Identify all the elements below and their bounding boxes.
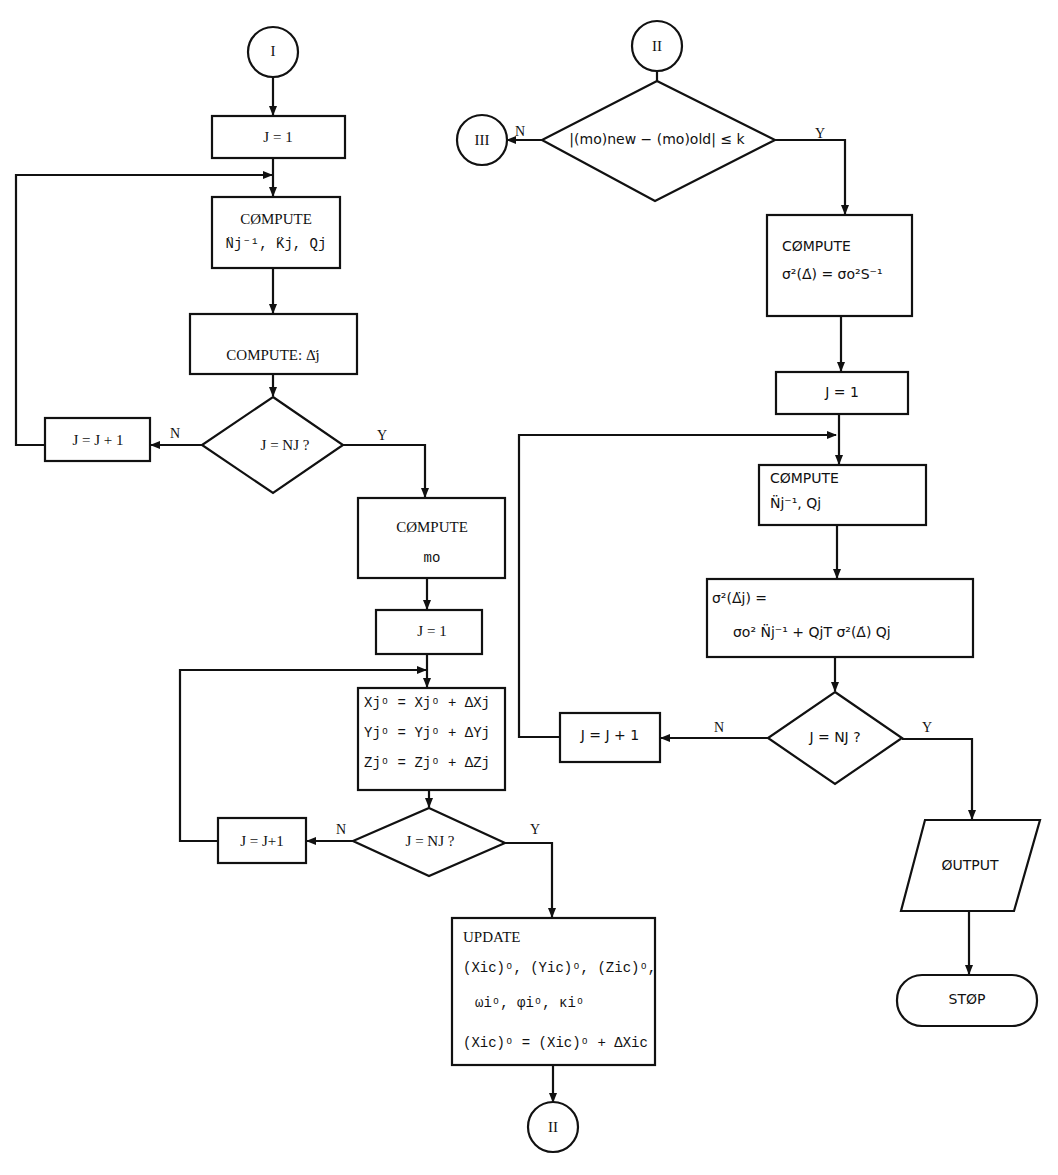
branch-no-1: N (170, 426, 180, 442)
connector-II-bottom-label: II (548, 1118, 558, 1136)
decision-2-label: J = NJ ? (406, 832, 455, 850)
j-init-3-label: J = 1 (825, 384, 859, 401)
connector-II-top-label: II (652, 37, 662, 55)
compute-nkq-formula: N̈j⁻¹, K̈j, Qj (226, 236, 327, 253)
box-compute-delta (190, 314, 357, 374)
j-init-2-label: J = 1 (417, 622, 446, 640)
j-init-1-label: J = 1 (263, 128, 292, 146)
compute-delta-label: COMPUTE: Δ̈j (226, 346, 319, 364)
increment-3-label: J = J + 1 (581, 727, 639, 744)
update-line-1: (Xic)ᵒ, (Yic)ᵒ, (Zic)ᵒ, (463, 960, 656, 977)
output-label: ØUTPUT (941, 857, 998, 874)
branch-yes-1: Y (377, 428, 387, 444)
compute-nq-formula: N̈j⁻¹, Qj (770, 495, 821, 512)
branch-yes-3: Y (815, 126, 825, 142)
branch-yes-4: Y (922, 720, 932, 736)
compute-mo-formula: mo (424, 550, 441, 567)
decision-3-label: J = NJ ? (809, 729, 860, 746)
update-z-line: Zjᵒ = Zjᵒ + ΔZj (364, 755, 490, 772)
branch-no-3: N (515, 124, 525, 140)
sigma-delta-j-line2: σo² N̈j⁻¹ + QjT σ²(Δ̇) Qj (733, 624, 891, 641)
connector-III-label: III (475, 131, 490, 149)
branch-yes-2: Y (530, 822, 540, 838)
update-title: UPDATE (463, 928, 521, 946)
connector-I-label: I (271, 42, 276, 60)
increment-2-label: J = J+1 (240, 832, 284, 850)
compute-nq-title: CØMPUTE (770, 470, 839, 487)
update-y-line: Yjᵒ = Yjᵒ + ΔYj (364, 725, 490, 742)
branch-no-2: N (336, 822, 346, 838)
compute-nkq-title: CØMPUTE (240, 210, 312, 228)
convergence-label: |(mo)new − (mo)old| ≤ k (569, 131, 744, 148)
decision-1-label: J = NJ ? (261, 436, 310, 454)
box-compute-nkq (212, 197, 340, 268)
compute-sigma-title: CØMPUTE (782, 238, 851, 255)
sigma-delta-j-line1: σ²(Δ̈j) = (712, 590, 767, 607)
update-line-2: ωiᵒ, φiᵒ, κiᵒ (475, 995, 584, 1012)
update-line-3: (Xic)ᵒ = (Xic)ᵒ + ΔXic (463, 1035, 648, 1052)
stop-label: STØP (949, 991, 986, 1008)
update-x-line: Xjᵒ = Xjᵒ + ΔXj (364, 695, 490, 712)
compute-sigma-formula: σ²(Δ̇) = σo²S⁻¹ (782, 266, 883, 283)
increment-1-label: J = J + 1 (72, 431, 123, 449)
compute-mo-title: CØMPUTE (396, 518, 468, 536)
branch-no-4: N (714, 720, 724, 736)
